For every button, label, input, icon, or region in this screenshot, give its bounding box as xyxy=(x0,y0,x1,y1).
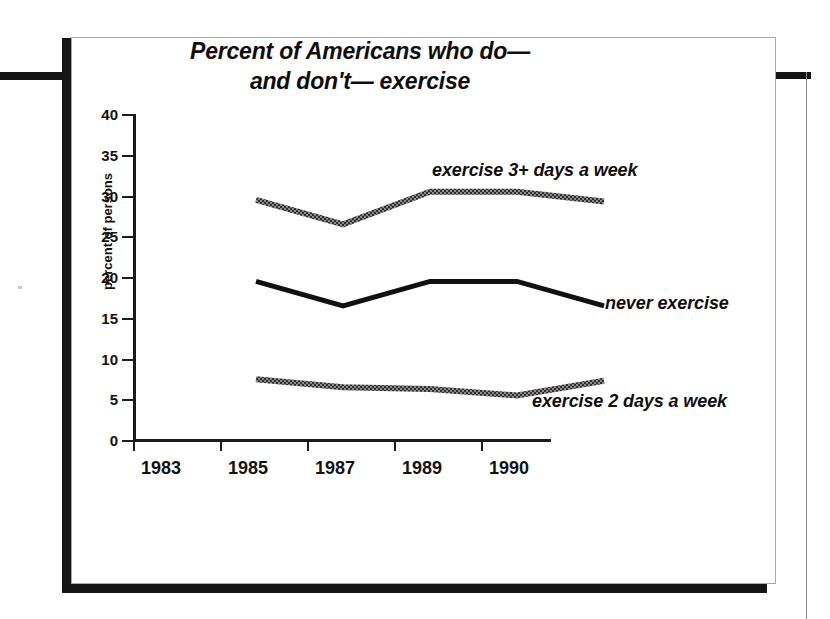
series-line-0 xyxy=(256,192,604,225)
series-line-1 xyxy=(256,281,604,305)
figure-page: Percent of Americans who do— and don't— … xyxy=(0,0,830,619)
series-label-exercise-3plus: exercise 3+ days a week xyxy=(432,160,637,181)
series-label-exercise-2days: exercise 2 days a week xyxy=(532,391,727,412)
series-label-never-exercise: never exercise xyxy=(605,293,729,314)
